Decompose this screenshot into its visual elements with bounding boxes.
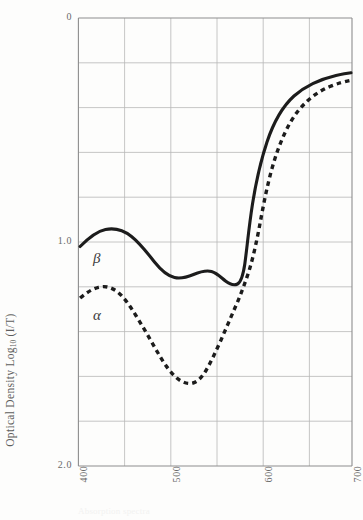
x-tick-wrap-700: 700 (344, 474, 360, 514)
x-tick-label-400: 400 (78, 466, 89, 483)
y-axis-title-suffix: (I/T) (4, 313, 16, 339)
x-tick-label-500: 500 (171, 466, 182, 483)
x-tick-label-700: 700 (352, 466, 363, 483)
y-tick-label-0: 0 (44, 11, 72, 22)
y-axis-title-subscript: 10 (9, 340, 18, 348)
y-tick-label-1: 1.0 (40, 235, 72, 246)
x-tick-wrap-500: 500 (163, 474, 179, 514)
curve-label-alpha: α (93, 307, 101, 324)
x-tick-wrap-600: 600 (255, 474, 271, 514)
y-axis-title-text: Optical Density Log (4, 347, 16, 447)
y-axis-title: Optical Density Log10 (I/T) (4, 313, 17, 447)
y-axis-title-wrap: Optical Density Log10 (I/T) (0, 290, 22, 470)
x-tick-label-600: 600 (263, 466, 274, 483)
y-tick-label-2: 2.0 (40, 459, 72, 470)
figure-caption: Absorption spectra (78, 506, 150, 516)
curve-label-beta: β (93, 250, 100, 267)
